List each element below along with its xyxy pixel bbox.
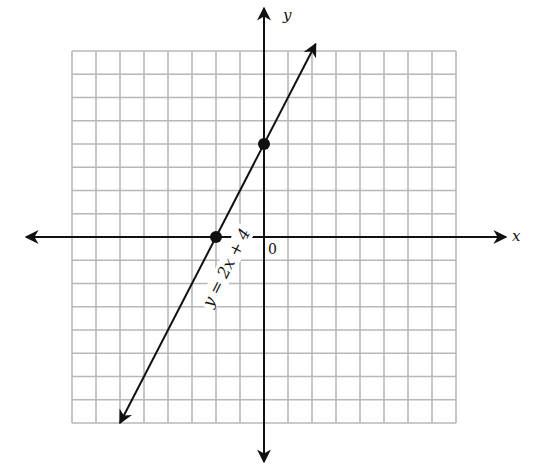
y-intercept-point	[258, 138, 270, 150]
x-axis-label: x	[512, 227, 520, 245]
y-axis-label: y	[283, 6, 291, 24]
origin-label: 0	[268, 241, 277, 257]
x-intercept-point	[210, 231, 222, 243]
coordinate-plane	[0, 0, 539, 467]
